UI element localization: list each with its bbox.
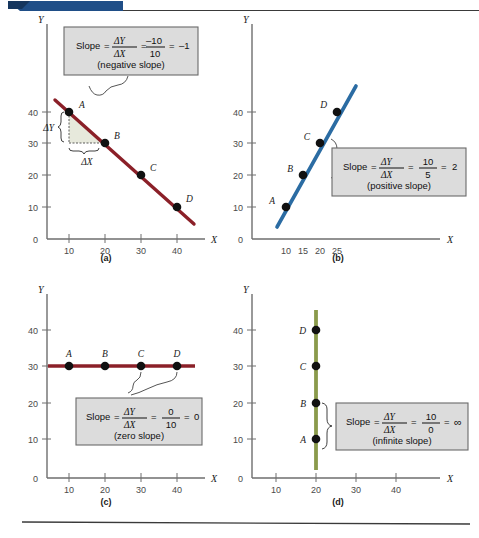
- panel-d-ylabel-30: 30: [233, 362, 243, 372]
- slope-figure: Y X 0 40 30 20 10 10 20 30 40 ΔY ΔX: [0, 0, 479, 538]
- panel-a-callout-leader: [89, 76, 128, 95]
- panel-b-caption: (b): [318, 253, 358, 263]
- panel-c-point-B-label: B: [102, 349, 108, 359]
- panel-b-eq1: =: [371, 161, 377, 172]
- panel-d-point-B-label: B: [300, 399, 306, 409]
- panel-a-ylabel-30: 30: [28, 139, 38, 149]
- panel-a-result: –1: [179, 40, 190, 51]
- panel-d-note: (infinite slope): [372, 435, 431, 446]
- panel-b-point-D: [333, 108, 342, 117]
- panel-c-xlabel-40: 40: [172, 485, 182, 495]
- panel-d-xlabel-10: 10: [271, 485, 281, 495]
- panel-b-result: 2: [452, 161, 457, 172]
- panel-c-result: 0: [194, 411, 199, 422]
- panel-d-x-axis-title: X: [446, 473, 454, 484]
- panel-a-frac2-num: –10: [146, 35, 162, 46]
- panel-b-frac2-num: 10: [423, 156, 434, 167]
- panel-d-frac1-num: ΔY: [383, 412, 397, 422]
- panel-c-x-axis-title: X: [210, 473, 218, 484]
- panel-b-xlabel-15: 15: [298, 246, 308, 256]
- panel-a-point-D-label: D: [185, 194, 193, 204]
- panel-a-point-C: [137, 171, 146, 180]
- panel-a-ylabel-20: 20: [28, 171, 38, 181]
- panel-c-y-axis-title: Y: [38, 284, 45, 295]
- panel-d-frac2-den: 0: [428, 424, 433, 435]
- panel-a-slope-word: Slope: [76, 40, 100, 51]
- panel-d-frac2-num: 10: [426, 411, 437, 422]
- panel-b-ylabel-10: 10: [233, 203, 243, 213]
- panel-a-point-B-label: B: [114, 131, 120, 141]
- panel-c-ylabel-30: 30: [28, 362, 38, 372]
- panel-d-callout-brace: [322, 403, 332, 449]
- panel-b-frac1-den: ΔX: [380, 170, 394, 180]
- panel-c-formula-box: Slope = ΔY ΔX = 0 10 = 0 (zero slope): [76, 398, 202, 445]
- panel-a-xlabel-40: 40: [172, 246, 182, 256]
- panel-c-frac1-den: ΔX: [123, 420, 137, 430]
- panel-d-point-A: [312, 435, 321, 444]
- panel-d-point-C-label: C: [300, 362, 307, 372]
- panel-c-ylabel-10: 10: [28, 435, 38, 445]
- panel-b-point-D-label: D: [319, 100, 327, 110]
- panel-d-result: ∞: [454, 416, 462, 428]
- panel-b-point-A: [282, 203, 291, 212]
- panel-c-point-A-label: A: [65, 349, 72, 359]
- panel-b-frac2-den: 5: [425, 169, 430, 180]
- panel-b-point-C-label: C: [304, 132, 311, 142]
- panel-d-point-D: [312, 326, 321, 335]
- panel-b-slope-word: Slope: [343, 161, 367, 172]
- panel-a-ylabel-10: 10: [28, 203, 38, 213]
- panel-a-delta-y-label: ΔY: [42, 123, 56, 133]
- panel-a-xlabel-30: 30: [136, 246, 146, 256]
- panel-a-x-axis-title: X: [210, 234, 218, 245]
- panel-d-origin-label: 0: [238, 474, 243, 484]
- panel-c-frac1-num: ΔY: [123, 407, 137, 417]
- panel-b-xlabel-10: 10: [281, 246, 291, 256]
- panel-a-ylabel-40: 40: [28, 108, 38, 118]
- panel-c-note: (zero slope): [114, 430, 164, 441]
- panel-a-point-A-label: A: [78, 100, 85, 110]
- panel-c-eq2: =: [151, 411, 157, 422]
- panel-d-xlabel-20: 20: [311, 485, 321, 495]
- panel-c-eq3: =: [184, 411, 190, 422]
- panel-d-caption: (d): [318, 497, 358, 507]
- panel-c-point-D: [173, 362, 182, 371]
- panel-a-point-B: [101, 139, 110, 148]
- panel-c-ylabel-40: 40: [28, 326, 38, 336]
- panel-b-point-B-label: B: [287, 164, 293, 174]
- panel-b-ylabel-30: 30: [233, 139, 243, 149]
- panel-d-point-C: [312, 362, 321, 371]
- panel-b-eq3: =: [441, 161, 447, 172]
- panel-b-y-axis-title: Y: [243, 14, 250, 25]
- panel-a-point-A: [65, 108, 74, 117]
- panel-c-slope-word: Slope: [86, 411, 110, 422]
- panel-b-point-B: [299, 171, 308, 180]
- panel-d: Y X 0 40 30 20 10 10 20 30 40 A B C D Sl…: [233, 284, 468, 495]
- panel-b-ylabel-40: 40: [233, 108, 243, 118]
- panel-d-slope-word: Slope: [346, 416, 370, 427]
- panel-c-frac2-num: 0: [168, 406, 173, 417]
- panel-b-point-A-label: A: [268, 196, 275, 206]
- panel-c-callout-leader: [128, 372, 177, 395]
- panel-a-eq1: =: [104, 40, 110, 51]
- panel-d-eq3: =: [444, 416, 450, 427]
- panel-c-origin-label: 0: [33, 474, 38, 484]
- panel-b-formula-box: Slope = ΔY ΔX = 10 5 = 2 (positive slope…: [332, 148, 466, 196]
- panel-a-frac1-den: ΔX: [113, 49, 127, 59]
- panel-b-eq2: =: [408, 161, 414, 172]
- panel-c-point-C-label: C: [138, 349, 145, 359]
- panel-c: Y X 0 40 30 20 10 10 20 30 40 A B C D Sl…: [28, 284, 218, 495]
- panel-a-eq3: =: [169, 40, 175, 51]
- panel-b-ylabel-20: 20: [233, 171, 243, 181]
- panel-a-delta-x-brace: [69, 148, 99, 154]
- panel-c-xlabel-10: 10: [64, 485, 74, 495]
- panel-d-xlabel-30: 30: [351, 485, 361, 495]
- panel-d-eq1: =: [374, 416, 380, 427]
- panel-d-point-A-label: A: [299, 435, 306, 445]
- footer-rule: [22, 522, 470, 524]
- panel-b-origin-label: 0: [238, 235, 243, 245]
- panel-b: Y X 0 40 30 20 10 10 15 20 25 A B C D Sl…: [233, 14, 466, 256]
- panel-a-frac1-num: ΔY: [113, 36, 127, 46]
- panel-b-point-C: [316, 139, 325, 148]
- panel-a-point-D: [173, 203, 182, 212]
- panel-c-xlabel-30: 30: [136, 485, 146, 495]
